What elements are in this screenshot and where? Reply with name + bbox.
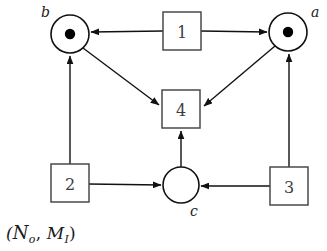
arc-place-a-to-transition4 [204, 46, 275, 106]
figure-caption: (No, MI) [6, 222, 76, 246]
caption-net-subscript: o [29, 233, 36, 246]
transition-2[interactable]: 2 [51, 164, 89, 202]
caption-marking-symbol: M [47, 223, 65, 243]
petri-net-figure: b a c 1 4 2 [0, 0, 327, 251]
transition-4[interactable]: 4 [162, 90, 200, 128]
transition-3-label: 3 [284, 178, 294, 197]
place-a-label: a [311, 4, 319, 20]
arc-transition2-to-place-c [89, 184, 161, 185]
transition-3[interactable]: 3 [270, 167, 308, 205]
transition-1[interactable]: 1 [163, 12, 201, 50]
caption-net-symbol: N [13, 222, 29, 243]
caption-open-paren: ( [6, 223, 13, 243]
place-c[interactable]: c [163, 167, 199, 219]
caption-close-paren: ) [69, 223, 76, 243]
place-b-token [65, 29, 75, 39]
arc-transition1-to-place-b [91, 31, 163, 32]
transition-4-label: 4 [176, 101, 186, 120]
place-b[interactable]: b [41, 4, 89, 53]
caption-comma: , [36, 223, 47, 243]
place-a[interactable]: a [269, 4, 319, 51]
transition-1-label: 1 [177, 23, 187, 42]
place-c-circle[interactable] [163, 167, 199, 203]
transition-2-label: 2 [65, 175, 75, 194]
place-c-label: c [190, 203, 198, 219]
arc-transition1-to-place-a [201, 31, 267, 32]
petri-net-canvas: b a c 1 4 2 [0, 0, 327, 251]
place-a-token [283, 27, 293, 37]
place-b-label: b [41, 4, 50, 20]
arc-place-b-to-transition4 [83, 48, 159, 105]
